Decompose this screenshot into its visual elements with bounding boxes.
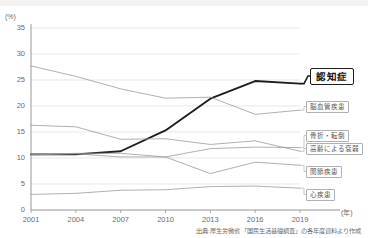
x-axis-unit-label: (年) <box>341 207 353 217</box>
series-label-other: 関節疾患 <box>306 166 342 178</box>
y-axis-unit-label: (%) <box>5 13 16 20</box>
series-label-other: 心疾患 <box>306 189 335 201</box>
y-tick-label: 20 <box>3 101 25 110</box>
y-tick-label: 35 <box>3 23 25 32</box>
source-note: 出典:厚生労働省 「国民生活基礎調査」の各年度資料より作成 <box>196 226 361 235</box>
series-label-other: 骨折・転倒 <box>306 130 349 142</box>
chart-plot-area <box>0 0 368 238</box>
x-tick-label: 2016 <box>235 215 275 224</box>
series-label-other: 脳血管疾患 <box>306 101 349 113</box>
series-lines-group <box>31 66 300 194</box>
series-label-other: 高齢による衰弱 <box>306 143 363 155</box>
y-tick-label: 0 <box>3 205 25 214</box>
x-tick-label: 2019 <box>280 215 320 224</box>
y-tick-label: 30 <box>3 49 25 58</box>
gridlines-group <box>31 28 300 184</box>
series-label-dementia: 認知症 <box>310 68 354 85</box>
x-tick-label: 2013 <box>190 215 230 224</box>
y-tick-label: 5 <box>3 179 25 188</box>
chart-container: (%) (年) 05101520253035 20012004200720102… <box>0 0 368 238</box>
axis-lines-group <box>31 24 340 213</box>
y-tick-label: 10 <box>3 153 25 162</box>
x-tick-label: 2007 <box>101 215 141 224</box>
x-tick-label: 2004 <box>56 215 96 224</box>
x-tick-label: 2001 <box>11 215 51 224</box>
y-tick-label: 25 <box>3 75 25 84</box>
y-tick-label: 15 <box>3 127 25 136</box>
x-tick-label: 2010 <box>146 215 186 224</box>
